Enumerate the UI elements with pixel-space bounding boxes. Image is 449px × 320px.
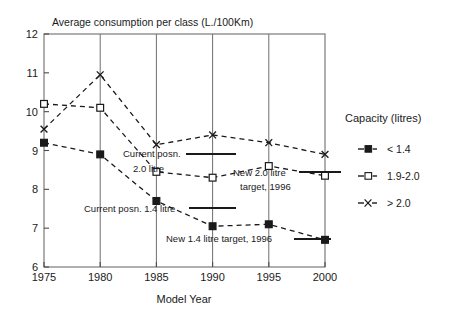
data-point-marker — [41, 139, 48, 146]
x-axis-tick-labels: 1975 1980 1985 1990 1995 2000 — [32, 271, 337, 283]
annotation-text-line1: New 2.0 litre — [233, 167, 286, 178]
y-tick-label: 8 — [32, 183, 38, 195]
legend-item-gt-2-0[interactable]: > 2.0 — [358, 197, 411, 209]
x-tick-label: 1980 — [88, 271, 112, 283]
y-axis-tick-labels: 12 11 10 9 8 7 6 — [26, 28, 38, 273]
annotation-text-line1: New 1.4 litre target, 1996 — [166, 233, 272, 244]
y-tick-label: 11 — [27, 67, 38, 79]
x-axis-ticks — [44, 262, 325, 267]
x-axis-title: Model Year — [156, 293, 211, 305]
chart-svg: Average consumption per class (L./100Km)… — [0, 0, 449, 320]
data-point-marker — [209, 174, 216, 181]
series-line — [44, 75, 325, 155]
data-point-marker — [97, 151, 104, 158]
y-axis-ticks — [44, 34, 49, 267]
legend-item-label: 1.9-2.0 — [387, 170, 420, 182]
x-tick-label: 1990 — [200, 271, 224, 283]
legend-item-label: < 1.4 — [387, 143, 411, 155]
data-point-marker — [97, 104, 104, 111]
y-tick-label: 9 — [32, 145, 38, 157]
legend-swatch-x-cross-icon — [358, 199, 377, 206]
annotation-new-1-4-litre-target: New 1.4 litre target, 1996 — [166, 233, 331, 244]
series-layer — [41, 71, 329, 243]
data-point-marker — [322, 172, 329, 179]
x-tick-label: 1995 — [257, 271, 281, 283]
annotation-text-line1: Current posn. — [123, 148, 181, 159]
annotation-text-line2: 2.0 litre — [133, 163, 164, 174]
x-tick-label: 2000 — [313, 271, 337, 283]
x-tick-label: 1985 — [144, 271, 168, 283]
legend-title: Capacity (litres) — [345, 112, 421, 124]
legend-item-1-9-2-0[interactable]: 1.9-2.0 — [358, 170, 420, 182]
chart-title: Average consumption per class (L./100Km) — [52, 16, 253, 28]
annotation-text-line2: target, 1996 — [240, 181, 291, 192]
chart-figure: Average consumption per class (L./100Km)… — [0, 0, 449, 320]
y-tick-label: 7 — [32, 222, 38, 234]
data-point-marker — [41, 101, 48, 108]
annotation-text-line1: Current posn. 1.4 litre — [84, 203, 175, 214]
legend-swatch-filled-square-icon — [358, 146, 377, 153]
legend-item-lt-1-4[interactable]: < 1.4 — [358, 143, 411, 155]
series--2-0 — [41, 71, 329, 157]
annotation-current-posn-2-0-litre: Current posn. 2.0 litre — [123, 148, 236, 174]
x-tick-label: 1975 — [32, 271, 56, 283]
legend: Capacity (litres) < 1.4 1.9-2.0 — [345, 112, 421, 209]
legend-item-label: > 2.0 — [387, 197, 411, 209]
y-tick-label: 10 — [26, 106, 38, 118]
legend-swatch-open-square-icon — [358, 173, 377, 180]
data-point-marker — [209, 223, 216, 230]
y-tick-label: 12 — [26, 28, 38, 40]
data-point-marker — [265, 221, 272, 228]
annotation-current-posn-1-4-litre: Current posn. 1.4 litre — [84, 203, 236, 214]
